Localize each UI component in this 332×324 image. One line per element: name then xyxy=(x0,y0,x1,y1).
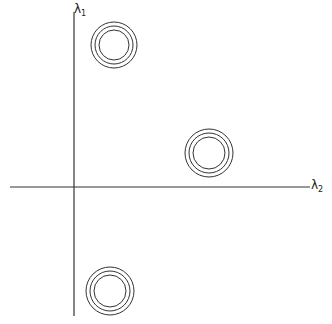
concentric-circle xyxy=(185,129,233,177)
concentric-circle xyxy=(193,137,225,169)
eigenvalue-diagram xyxy=(0,0,332,324)
concentric-circle xyxy=(95,26,133,64)
concentric-circle xyxy=(94,275,126,307)
circle-cluster-lower-left xyxy=(86,267,134,315)
concentric-circle xyxy=(189,133,229,173)
concentric-circle xyxy=(99,30,129,60)
circle-cluster-upper-left xyxy=(91,22,137,68)
concentric-circle xyxy=(90,271,130,311)
vertical-axis-label: λ1 xyxy=(74,2,86,18)
concentric-circle xyxy=(86,267,134,315)
circle-clusters xyxy=(86,22,233,315)
horizontal-axis-label: λ2 xyxy=(311,178,323,194)
circle-cluster-right xyxy=(185,129,233,177)
concentric-circle xyxy=(91,22,137,68)
